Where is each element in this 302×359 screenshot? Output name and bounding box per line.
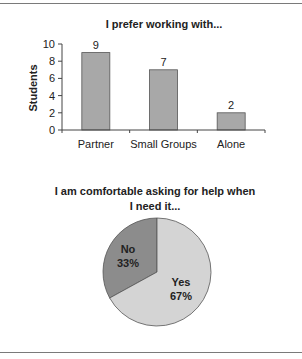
pie-slices: No33%Yes67% <box>103 218 211 326</box>
pie-label-percent: 33% <box>117 257 139 269</box>
pie-label-name: No <box>121 243 136 255</box>
bar <box>150 70 178 130</box>
bars: 972 <box>82 39 245 130</box>
y-tick-label: 6 <box>49 72 55 84</box>
y-axis-label: Students <box>27 64 39 111</box>
bar <box>82 53 110 130</box>
y-axis-ticks: 0246810 <box>43 38 62 136</box>
y-tick-label: 0 <box>49 124 55 136</box>
y-tick-label: 4 <box>49 90 55 102</box>
pie-chart-title-line-1: I am comfortable asking for help when <box>55 185 256 197</box>
y-tick-label: 2 <box>49 107 55 119</box>
pie-label-percent: 67% <box>170 290 192 302</box>
pie-chart: I am comfortable asking for help when I … <box>55 185 256 326</box>
x-axis-ticks: PartnerSmall GroupsAlone <box>62 130 265 150</box>
pie-label-name: Yes <box>172 276 191 288</box>
charts-canvas: I prefer working with... Students 024681… <box>0 0 302 359</box>
bar <box>217 113 245 130</box>
x-category-label: Partner <box>78 138 114 150</box>
bar-value-label: 9 <box>93 39 99 51</box>
bar-chart: I prefer working with... Students 024681… <box>27 18 265 150</box>
x-category-label: Alone <box>217 138 245 150</box>
bar-value-label: 7 <box>160 56 166 68</box>
x-category-label: Small Groups <box>130 138 197 150</box>
bar-chart-title: I prefer working with... <box>106 18 223 30</box>
y-tick-label: 10 <box>43 38 55 50</box>
bar-value-label: 2 <box>228 99 234 111</box>
pie-chart-title-line-2: I need it... <box>130 200 181 212</box>
y-tick-label: 8 <box>49 55 55 67</box>
